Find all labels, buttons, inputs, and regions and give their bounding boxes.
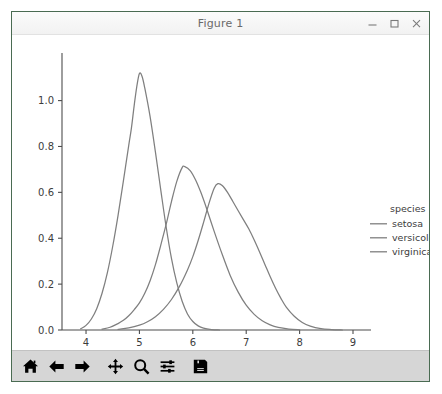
minimize-button[interactable] — [366, 17, 379, 30]
legend-label-setosa: setosa — [392, 218, 423, 229]
y-tick-label: 0.6 — [38, 187, 54, 198]
y-tick-label: 0.8 — [38, 141, 54, 152]
x-tick-label: 4 — [83, 337, 89, 348]
y-tick-label: 1.0 — [38, 95, 54, 106]
window-controls — [366, 12, 423, 34]
configure-subplots-button[interactable] — [154, 354, 180, 378]
matplotlib-toolbar — [12, 350, 429, 381]
pan-button[interactable] — [102, 354, 128, 378]
back-button[interactable] — [43, 354, 69, 378]
y-tick-label: 0.4 — [38, 233, 54, 244]
legend-label-virginica: virginica — [392, 246, 429, 257]
kde-curve-virginica — [118, 184, 342, 330]
maximize-button[interactable] — [388, 17, 401, 30]
forward-button[interactable] — [69, 354, 95, 378]
kde-plot: 0.00.20.40.60.81.0456789sepal_lengthspec… — [12, 35, 429, 350]
save-button[interactable] — [187, 354, 213, 378]
toolbar-separator — [95, 354, 102, 378]
x-tick-label: 9 — [350, 337, 356, 348]
window-titlebar[interactable]: Figure 1 — [12, 12, 429, 35]
kde-curve-setosa — [81, 73, 220, 330]
y-tick-label: 0.2 — [38, 279, 54, 290]
y-tick-label: 0.0 — [38, 325, 54, 336]
legend-title: species — [390, 203, 426, 214]
home-button[interactable] — [17, 354, 43, 378]
x-tick-label: 8 — [296, 337, 302, 348]
plot-svg: 0.00.20.40.60.81.0456789sepal_lengthspec… — [12, 35, 429, 350]
x-tick-label: 6 — [190, 337, 196, 348]
figure-canvas[interactable]: 0.00.20.40.60.81.0456789sepal_lengthspec… — [12, 35, 429, 350]
close-button[interactable] — [410, 17, 423, 30]
x-tick-label: 5 — [136, 337, 142, 348]
toolbar-separator — [180, 354, 187, 378]
kde-curve-versicolor — [102, 166, 300, 330]
legend-label-versicolor: versicolor — [392, 232, 429, 243]
window-title: Figure 1 — [198, 17, 244, 30]
zoom-button[interactable] — [128, 354, 154, 378]
x-tick-label: 7 — [243, 337, 249, 348]
figure-window: Figure 1 0.00.20.40.60.81.0456789sepal_l… — [11, 11, 430, 382]
